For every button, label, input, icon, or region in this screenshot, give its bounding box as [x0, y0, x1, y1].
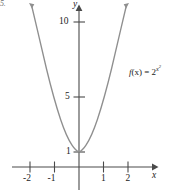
- x-tick-label-neg2: -2: [23, 173, 31, 183]
- x-tick-label-neg1: -1: [48, 173, 56, 183]
- x-tick-label-2: 2: [126, 173, 131, 183]
- y-tick-label-1: 1: [66, 146, 71, 156]
- function-label-exponent: x2: [156, 65, 161, 72]
- function-label-exp-power: 2: [159, 64, 161, 69]
- figure-container: 5.: [0, 0, 170, 190]
- function-label-var: (x): [132, 67, 143, 77]
- y-axis-label: y: [73, 0, 77, 9]
- function-label-eq: = 2: [142, 67, 156, 77]
- function-annotation: f(x) = 2x2: [129, 67, 161, 77]
- x-tick-label-1: 1: [101, 173, 106, 183]
- y-tick-label-5: 5: [65, 91, 70, 101]
- y-tick-label-10: 10: [59, 16, 69, 26]
- x-axis-label: x: [152, 170, 156, 180]
- x-axis: [12, 164, 159, 171]
- graph-canvas: [0, 0, 170, 190]
